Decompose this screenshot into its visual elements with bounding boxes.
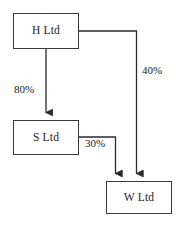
node-s-ltd-label: S Ltd: [33, 132, 59, 144]
edge-label-h-to-s: 80%: [14, 84, 34, 95]
edge-label-s-to-w: 30%: [85, 138, 105, 149]
diagram-canvas: H Ltd S Ltd W Ltd 80% 30% 40%: [0, 0, 179, 226]
edge-h-to-w: [79, 31, 137, 174]
node-s-ltd: S Ltd: [13, 120, 79, 155]
node-w-ltd: W Ltd: [106, 181, 172, 214]
node-h-ltd-label: H Ltd: [32, 25, 60, 37]
node-w-ltd-label: W Ltd: [124, 192, 155, 204]
edge-label-h-to-w: 40%: [142, 65, 162, 76]
node-h-ltd: H Ltd: [13, 13, 79, 49]
